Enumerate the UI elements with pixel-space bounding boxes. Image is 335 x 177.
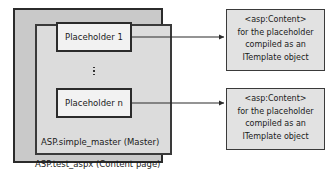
callout-1-line-3: compiled as an <box>229 39 322 52</box>
callout-2-line-4: ITemplate object <box>229 131 322 144</box>
callout-2-line-1: <asp:Content> <box>229 93 322 106</box>
vertical-ellipsis-icon <box>56 58 132 84</box>
ellipsis-dot <box>93 67 95 69</box>
placeholder-box-n: Placeholder n <box>56 88 132 118</box>
placeholder-n-label: Placeholder n <box>65 99 123 108</box>
content-page-caption: ASP.test_aspx (Content page) <box>35 160 160 169</box>
ellipsis-dot <box>93 74 95 76</box>
master-page-caption: ASP.simple_master (Master) <box>41 138 159 147</box>
placeholder-box-1: Placeholder 1 <box>56 22 132 52</box>
callout-1-line-1: <asp:Content> <box>229 14 322 27</box>
callout-box-2: <asp:Content> for the placeholder compil… <box>226 88 325 150</box>
callout-1-line-4: ITemplate object <box>229 52 322 65</box>
callout-1-line-2: for the placeholder <box>229 27 322 40</box>
callout-2-line-2: for the placeholder <box>229 106 322 119</box>
ellipsis-dot <box>93 70 95 72</box>
callout-2-line-3: compiled as an <box>229 118 322 131</box>
placeholder-1-label: Placeholder 1 <box>65 33 123 42</box>
diagram-canvas: ASP.simple_master (Master) ASP.test_aspx… <box>0 0 335 177</box>
callout-box-1: <asp:Content> for the placeholder compil… <box>226 9 325 71</box>
